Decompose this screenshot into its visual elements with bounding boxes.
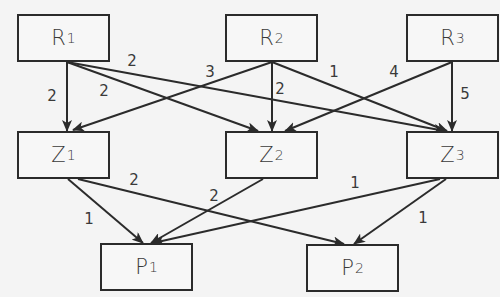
node-r2: R2 [225, 14, 318, 62]
node-r1: R1 [17, 14, 110, 62]
node-p1: P1 [100, 243, 193, 291]
node-z2: Z2 [225, 131, 318, 179]
edge-weight-r1-z1: 2 [47, 89, 57, 104]
node-subscript: 1 [67, 147, 76, 163]
node-label: P [135, 255, 148, 279]
edge-weight-r2-z2: 2 [275, 82, 285, 97]
node-subscript: 1 [67, 30, 76, 46]
edge-weight-z1-p2: 2 [129, 173, 139, 188]
edge-arrow-z1-p1 [68, 179, 143, 243]
node-r3: R3 [406, 14, 499, 62]
edge-weight-z3-p2: 1 [418, 211, 428, 226]
edge-weight-z3-p1: 1 [350, 176, 360, 191]
node-label: Z [440, 143, 454, 167]
node-subscript: 2 [275, 30, 284, 46]
flow-diagram: 2223214512211 R1R2R3Z1Z2Z3P1P2 [0, 0, 500, 297]
edge-weight-r1-z3: 2 [127, 54, 137, 69]
edge-weight-r2-z1: 3 [205, 65, 215, 80]
node-subscript: 2 [355, 260, 364, 276]
node-label: R [51, 26, 66, 50]
edge-weight-r2-z3: 1 [329, 65, 339, 80]
node-z3: Z3 [406, 131, 499, 179]
node-label: R [259, 26, 274, 50]
node-subscript: 1 [149, 259, 158, 275]
edge-arrow-r3-z2 [285, 62, 452, 131]
edge-arrow-r2-z3 [272, 62, 447, 131]
edge-arrow-r1-z2 [67, 62, 258, 131]
node-label: P [341, 256, 354, 280]
edge-weight-z1-p1: 1 [84, 212, 94, 227]
node-z1: Z1 [17, 131, 110, 179]
edge-arrow-z2-p1 [151, 179, 263, 243]
edge-weight-r3-z3: 5 [460, 87, 470, 102]
edge-weight-r3-z2: 4 [389, 65, 399, 80]
node-subscript: 3 [456, 147, 465, 163]
node-p2: P2 [306, 244, 399, 292]
node-label: Z [259, 143, 273, 167]
edge-weight-r1-z2: 2 [99, 84, 109, 99]
node-subscript: 2 [275, 147, 284, 163]
node-label: Z [51, 143, 65, 167]
node-label: R [440, 26, 455, 50]
node-subscript: 3 [456, 30, 465, 46]
edge-weight-z2-p1: 2 [209, 189, 219, 204]
